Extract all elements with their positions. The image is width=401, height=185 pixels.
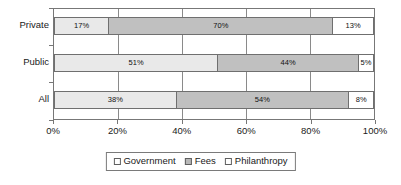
legend-label-fees: Fees bbox=[195, 155, 216, 167]
bar-segment-public-philanthropy: 5% bbox=[358, 54, 374, 72]
x-axis-label-60: 60% bbox=[237, 124, 256, 137]
x-axis-label-0: 0% bbox=[46, 124, 60, 137]
x-axis-label-100: 100% bbox=[363, 124, 387, 137]
legend-item-philanthropy: Philanthropy bbox=[225, 155, 288, 167]
bar-segment-private-fees: 70% bbox=[108, 17, 332, 35]
chart-legend: Government Fees Philanthropy bbox=[105, 152, 295, 171]
bar-segment-public-fees: 44% bbox=[217, 54, 358, 72]
y-axis-label-all: All bbox=[0, 90, 49, 108]
y-axis-labels: Private Public All bbox=[0, 8, 49, 120]
y-axis-label-public: Public bbox=[0, 53, 49, 71]
bar-segment-private-philanthropy: 13% bbox=[332, 17, 374, 35]
legend-swatch-government-icon bbox=[113, 158, 120, 165]
legend-swatch-fees-icon bbox=[185, 158, 192, 165]
bar-segment-all-philanthropy: 8% bbox=[348, 91, 374, 109]
legend-item-fees: Fees bbox=[185, 155, 216, 167]
x-axis-label-20: 20% bbox=[108, 124, 127, 137]
plot-area: 17% 70% 13% 51% 44% 5% 38% 54% 8% bbox=[53, 8, 375, 120]
bar-segment-all-government: 38% bbox=[54, 91, 176, 109]
bar-segment-private-government: 17% bbox=[54, 17, 108, 35]
legend-swatch-philanthropy-icon bbox=[225, 158, 232, 165]
stacked-bar-chart: Private Public All 17% 70% 13% 51% 44% bbox=[0, 0, 401, 185]
bar-segment-public-government: 51% bbox=[54, 54, 217, 72]
bar-row-all: 38% 54% 8% bbox=[54, 91, 374, 109]
legend-item-government: Government bbox=[113, 155, 175, 167]
bar-series-group: 17% 70% 13% 51% 44% 5% 38% 54% 8% bbox=[54, 9, 374, 119]
x-axis-label-40: 40% bbox=[172, 124, 191, 137]
bar-row-private: 17% 70% 13% bbox=[54, 17, 374, 35]
x-axis-labels: 0% 20% 40% 60% 80% 100% bbox=[53, 124, 375, 138]
x-axis-label-80: 80% bbox=[301, 124, 320, 137]
legend-label-philanthropy: Philanthropy bbox=[235, 155, 288, 167]
bar-segment-all-fees: 54% bbox=[176, 91, 349, 109]
bar-row-public: 51% 44% 5% bbox=[54, 54, 374, 72]
y-axis-label-private: Private bbox=[0, 16, 49, 34]
legend-label-government: Government bbox=[123, 155, 175, 167]
